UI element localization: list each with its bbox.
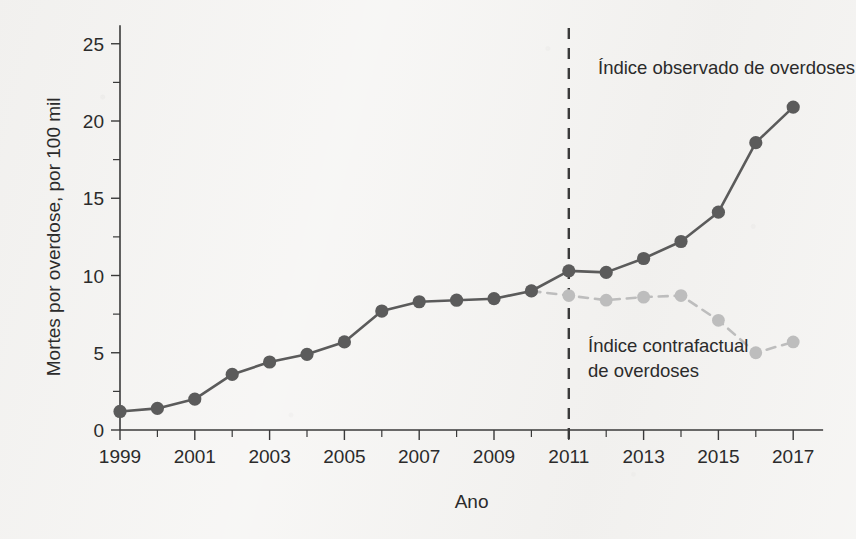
y-tick-label-25: 25 — [83, 34, 104, 55]
data-point — [749, 136, 762, 149]
data-point — [188, 393, 201, 406]
x-tick-label-2001: 2001 — [174, 446, 216, 467]
x-axis-title: Ano — [455, 491, 489, 512]
x-tick-label-2015: 2015 — [697, 446, 739, 467]
data-point — [787, 100, 800, 113]
data-point — [712, 206, 725, 219]
x-tick-label-2017: 2017 — [772, 446, 814, 467]
x-tick-label-2007: 2007 — [398, 446, 440, 467]
data-point — [226, 368, 239, 381]
data-point — [450, 294, 463, 307]
data-point — [600, 266, 613, 279]
data-point — [562, 289, 575, 302]
y-axis-tick-labels: 0510152025 — [83, 34, 104, 441]
data-point — [300, 348, 313, 361]
data-point — [749, 346, 762, 359]
data-point — [637, 252, 650, 265]
data-point — [338, 335, 351, 348]
y-tick-label-0: 0 — [93, 420, 104, 441]
data-point — [675, 289, 688, 302]
x-tick-label-1999: 1999 — [99, 446, 141, 467]
data-point — [375, 304, 388, 317]
data-point — [525, 284, 538, 297]
y-axis-title: Mortes por overdose, por 100 mil — [43, 97, 64, 376]
data-point — [637, 291, 650, 304]
x-tick-label-2011: 2011 — [548, 446, 589, 467]
y-tick-label-15: 15 — [83, 188, 104, 209]
data-point — [263, 355, 276, 368]
data-point — [562, 264, 575, 277]
x-axis-minor-ticks — [157, 430, 755, 437]
y-axis-minor-ticks — [113, 82, 120, 391]
counterfactual-label-line-1: Índice contrafactual — [588, 335, 748, 356]
y-tick-label-5: 5 — [93, 343, 104, 364]
chart-canvas: 0510152025 Mortes por overdose, por 100 … — [0, 0, 856, 539]
observed-label: Índice observado de overdoses — [598, 57, 855, 78]
x-tick-label-2003: 2003 — [248, 446, 290, 467]
chart-annotations: Índice observado de overdosesÍndice cont… — [588, 57, 855, 381]
x-axis-tick-labels: 1999200120032005200720092011201320152017 — [99, 446, 814, 467]
y-axis: 0510152025 Mortes por overdose, por 100 … — [43, 25, 120, 441]
data-point — [787, 336, 800, 349]
data-point — [151, 402, 164, 415]
data-point — [674, 235, 687, 248]
overdose-rate-line-chart: 0510152025 Mortes por overdose, por 100 … — [0, 0, 856, 539]
y-tick-label-20: 20 — [83, 111, 104, 132]
data-point — [600, 294, 613, 307]
counterfactual-label-line-2: de overdoses — [588, 360, 699, 381]
data-point — [113, 405, 126, 418]
counterfactual-label: Índice contrafactualde overdoses — [588, 335, 748, 381]
y-tick-label-10: 10 — [83, 266, 104, 287]
data-point — [487, 292, 500, 305]
observed-label-line-1: Índice observado de overdoses — [598, 57, 855, 78]
x-tick-label-2009: 2009 — [473, 446, 515, 467]
x-tick-label-2005: 2005 — [323, 446, 365, 467]
x-axis: 1999200120032005200720092011201320152017… — [99, 430, 823, 512]
data-point — [712, 314, 725, 327]
x-tick-label-2013: 2013 — [622, 446, 664, 467]
data-point — [413, 295, 426, 308]
